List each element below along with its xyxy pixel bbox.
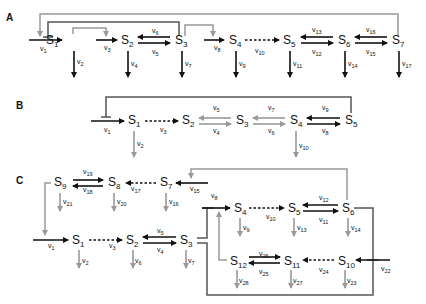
rate-label-v28: v28	[239, 277, 249, 286]
rate-label-v14: v14	[348, 60, 358, 69]
rate-label-v3: v3	[160, 126, 167, 135]
activation-s1-to-v3	[73, 28, 106, 36]
rate-label-v9: v9	[322, 104, 329, 113]
diagram-labels: AS1S2S3S4S5S6S7v1v2v3v4v5v6v7v8v9v10v11v…	[6, 12, 412, 286]
rate-label-v13: v13	[312, 26, 322, 35]
species-s2: S2	[121, 33, 134, 49]
rate-label-v9: v9	[239, 60, 246, 69]
rate-label-v5: v5	[213, 104, 220, 113]
rate-label-v23: v23	[347, 277, 357, 286]
species-s4: S4	[290, 113, 303, 129]
rate-label-v6: v6	[268, 127, 275, 136]
rate-label-v1: v1	[104, 126, 111, 135]
rate-label-v2: v2	[82, 257, 89, 266]
rate-label-v15: v15	[366, 48, 376, 57]
rate-label-v6: v6	[135, 257, 142, 266]
species-s5: S5	[283, 33, 296, 49]
rate-label-v4: v4	[213, 127, 220, 136]
rate-label-v12: v12	[312, 48, 322, 57]
panel-label-c: C	[16, 175, 23, 186]
rate-label-v14: v14	[351, 224, 361, 233]
rate-label-v8: v8	[214, 44, 221, 53]
rate-label-v9: v9	[243, 224, 250, 233]
rate-label-v19: v19	[83, 168, 93, 177]
rate-label-v10: v10	[255, 47, 265, 56]
rate-label-v7: v7	[188, 257, 195, 266]
species-s1: S1	[128, 113, 141, 129]
species-s3: S3	[236, 113, 249, 129]
activation-s3-to-v8	[185, 25, 213, 36]
rate-label-v11: v11	[319, 216, 328, 225]
rate-label-v17: v17	[402, 60, 412, 69]
species-s5: S5	[288, 201, 301, 217]
rate-label-v25: v25	[259, 268, 269, 277]
species-s7: S7	[160, 175, 173, 191]
species-s6: S6	[342, 201, 355, 217]
species-s11: S11	[284, 254, 301, 270]
rate-label-v27: v27	[293, 277, 303, 286]
rate-label-v4: v4	[157, 246, 164, 255]
rate-label-v8: v8	[322, 127, 329, 136]
rate-label-v2: v2	[77, 58, 84, 67]
species-s9: S9	[54, 175, 67, 191]
rate-label-v18: v18	[83, 186, 93, 195]
rate-label-v10: v10	[299, 142, 309, 151]
rate-label-v20: v20	[117, 198, 127, 207]
panel-b-edges	[91, 97, 351, 157]
inhibition-s5-to-v1	[106, 97, 351, 117]
species-s7: S7	[392, 33, 405, 49]
species-s2: S2	[126, 233, 139, 249]
species-s10: S10	[338, 254, 355, 270]
rate-label-v11: v11	[293, 60, 302, 69]
species-s4: S4	[229, 33, 242, 49]
rate-label-v6: v6	[152, 27, 159, 36]
rate-label-v21: v21	[63, 198, 73, 207]
rate-label-v1: v1	[48, 242, 55, 251]
inhibition-s3-to-v8	[197, 208, 207, 238]
rate-label-v16: v16	[169, 198, 179, 207]
rate-label-v8: v8	[211, 192, 218, 201]
rate-label-v17: v17	[131, 185, 141, 194]
inhibition-s3-to-v1	[48, 22, 179, 37]
rate-label-v5: v5	[157, 227, 164, 236]
species-s3: S3	[175, 33, 188, 49]
rate-label-v5: v5	[152, 48, 159, 57]
rate-label-v4: v4	[131, 60, 138, 69]
species-s4: S4	[234, 201, 247, 217]
panel-label-a: A	[6, 12, 13, 23]
rate-label-v7: v7	[185, 60, 192, 69]
species-s3: S3	[180, 233, 193, 249]
rate-label-v16: v16	[366, 26, 376, 35]
activation-s9-to-v1	[45, 183, 51, 235]
rate-label-v24: v24	[319, 266, 329, 275]
rate-label-v15: v15	[190, 185, 200, 194]
species-s1: S1	[46, 33, 59, 49]
pathway-diagram: AS1S2S3S4S5S6S7v1v2v3v4v5v6v7v8v9v10v11v…	[0, 0, 426, 304]
species-s12: S12	[230, 254, 247, 270]
activation-s12-to-v8	[219, 212, 227, 260]
rate-label-v3: v3	[104, 44, 111, 53]
species-s1: S1	[72, 233, 85, 249]
rate-label-v10: v10	[266, 213, 276, 222]
rate-label-v13: v13	[297, 224, 307, 233]
rate-label-v7: v7	[268, 104, 275, 113]
rate-label-v2: v2	[137, 140, 144, 149]
panel-label-b: B	[16, 100, 23, 111]
rate-label-v12: v12	[319, 194, 329, 203]
species-s5: S5	[345, 113, 358, 129]
rate-label-v22: v22	[381, 265, 391, 274]
species-s6: S6	[338, 33, 351, 49]
panel-c-edges	[33, 169, 390, 295]
rate-label-v3: v3	[109, 242, 116, 251]
species-s2: S2	[182, 113, 195, 129]
species-s8: S8	[108, 175, 121, 191]
